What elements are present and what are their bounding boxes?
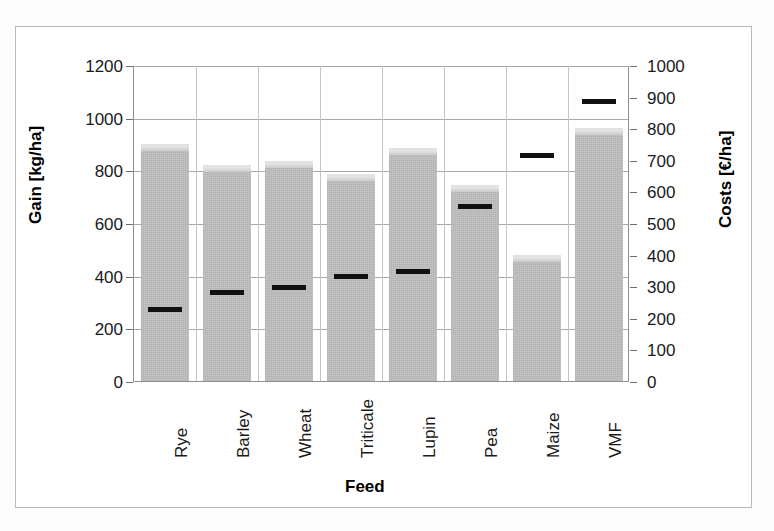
y-tick-mark-left bbox=[126, 66, 133, 67]
x-category-label-rye: Rye bbox=[172, 428, 192, 458]
x-category-label-barley: Barley bbox=[234, 410, 254, 458]
y-tick-mark-right bbox=[630, 161, 637, 162]
y-tick-mark-right bbox=[630, 319, 637, 320]
y-tick-label-right: 500 bbox=[647, 216, 675, 233]
category-separator bbox=[382, 66, 383, 381]
category-separator bbox=[568, 66, 569, 381]
bar-vmf bbox=[575, 128, 623, 381]
y-tick-mark-left bbox=[126, 119, 133, 120]
y-tick-mark-right bbox=[630, 129, 637, 130]
figure-root: Gain [kg/ha] Costs [€/ha] Feed 020040060… bbox=[0, 0, 774, 531]
category-separator bbox=[196, 66, 197, 381]
cost-marker-lupin bbox=[396, 269, 429, 274]
category-separator bbox=[506, 66, 507, 381]
y-tick-mark-left bbox=[126, 171, 133, 172]
y-tick-label-right: 800 bbox=[647, 121, 675, 138]
x-category-label-triticale: Triticale bbox=[358, 399, 378, 458]
cost-marker-maize bbox=[520, 153, 553, 158]
x-axis-title: Feed bbox=[345, 477, 385, 497]
cost-marker-wheat bbox=[272, 285, 305, 290]
y-tick-label-left: 1200 bbox=[75, 58, 123, 75]
x-category-label-vmf: VMF bbox=[606, 422, 626, 458]
y-tick-mark-left bbox=[126, 382, 133, 383]
y-tick-label-right: 300 bbox=[647, 279, 675, 296]
cost-marker-vmf bbox=[582, 99, 615, 104]
y-tick-label-left: 400 bbox=[75, 269, 123, 286]
cost-marker-barley bbox=[210, 290, 243, 295]
cost-marker-pea bbox=[458, 204, 491, 209]
bar-barley bbox=[203, 165, 251, 381]
cost-marker-rye bbox=[148, 307, 181, 312]
y-tick-label-left: 0 bbox=[75, 374, 123, 391]
y-tick-mark-right bbox=[630, 256, 637, 257]
y-tick-label-left: 200 bbox=[75, 321, 123, 338]
y-axis-title-right: Costs [€/ha] bbox=[716, 131, 736, 228]
y-tick-mark-left bbox=[126, 329, 133, 330]
y-tick-label-right: 100 bbox=[647, 342, 675, 359]
y-tick-label-left: 1000 bbox=[75, 111, 123, 128]
cost-marker-triticale bbox=[334, 274, 367, 279]
y-tick-label-left: 600 bbox=[75, 216, 123, 233]
y-tick-label-right: 200 bbox=[647, 311, 675, 328]
y-tick-label-right: 400 bbox=[647, 248, 675, 265]
y-tick-label-left: 800 bbox=[75, 163, 123, 180]
bar-pea bbox=[451, 185, 499, 381]
y-tick-label-right: 600 bbox=[647, 184, 675, 201]
y-tick-mark-right bbox=[630, 350, 637, 351]
y-tick-mark-right bbox=[630, 98, 637, 99]
y-tick-label-right: 900 bbox=[647, 90, 675, 107]
plot-area bbox=[133, 66, 629, 382]
y-tick-mark-right bbox=[630, 382, 637, 383]
y-tick-mark-left bbox=[126, 224, 133, 225]
x-category-label-wheat: Wheat bbox=[296, 409, 316, 458]
y-tick-mark-right bbox=[630, 192, 637, 193]
gridline bbox=[134, 119, 628, 120]
bar-lupin bbox=[389, 148, 437, 381]
category-separator bbox=[320, 66, 321, 381]
y-tick-label-right: 0 bbox=[647, 374, 656, 391]
bar-rye bbox=[141, 144, 189, 381]
gridline bbox=[134, 66, 628, 67]
x-category-label-maize: Maize bbox=[544, 413, 564, 458]
y-tick-label-right: 1000 bbox=[647, 58, 685, 75]
bar-maize bbox=[513, 255, 561, 381]
category-separator bbox=[444, 66, 445, 381]
y-axis-title-left: Gain [kg/ha] bbox=[26, 126, 46, 224]
y-tick-mark-right bbox=[630, 224, 637, 225]
y-tick-mark-right bbox=[630, 287, 637, 288]
bar-wheat bbox=[265, 161, 313, 381]
category-separator bbox=[258, 66, 259, 381]
y-tick-mark-right bbox=[630, 66, 637, 67]
y-tick-label-right: 700 bbox=[647, 153, 675, 170]
y-tick-mark-left bbox=[126, 277, 133, 278]
x-category-label-pea: Pea bbox=[482, 428, 502, 458]
x-category-label-lupin: Lupin bbox=[420, 416, 440, 458]
